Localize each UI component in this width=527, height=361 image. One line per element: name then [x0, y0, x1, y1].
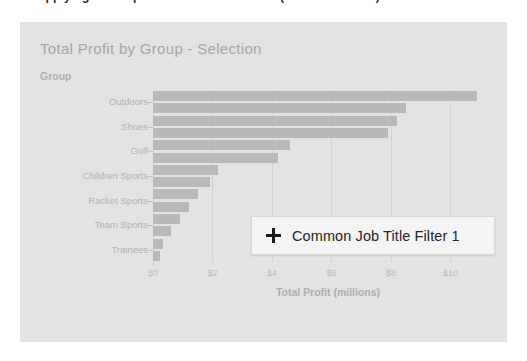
category-label[interactable]: Racket Sports	[88, 195, 148, 206]
bar[interactable]	[153, 226, 171, 236]
bar[interactable]	[153, 91, 477, 101]
bar[interactable]	[153, 165, 218, 175]
x-tick-label: $10	[443, 268, 458, 278]
x-axis-ticks: $0$2$4$6$8$10	[153, 268, 503, 284]
x-axis-title: Total Profit (millions)	[153, 286, 503, 298]
x-tick-label: $4	[267, 268, 277, 278]
chart-title: Total Profit by Group - Selection	[40, 40, 262, 57]
y-axis-title: Group	[40, 70, 72, 82]
x-tick-label: $0	[148, 268, 158, 278]
category-label[interactable]: Children Sports	[83, 170, 148, 181]
category-label[interactable]: Team Sports	[95, 219, 148, 230]
bar[interactable]	[153, 153, 278, 163]
bar[interactable]	[153, 214, 180, 224]
x-tick-label: $2	[207, 268, 217, 278]
filter-drag-chip[interactable]: Common Job Title Filter 1	[251, 216, 495, 255]
x-tick-label: $6	[326, 268, 336, 278]
cutoff-caption-text: After applying a Group filter to the Das…	[6, 0, 380, 3]
category-axis-labels: OutdoorsShoesGolfChildren SportsRacket S…	[20, 90, 148, 266]
bar[interactable]	[153, 239, 163, 249]
bar[interactable]	[153, 251, 160, 261]
bar[interactable]	[153, 116, 397, 126]
category-label[interactable]: Shoes	[121, 121, 148, 132]
x-tick-label: $8	[386, 268, 396, 278]
category-label[interactable]: Golf	[131, 145, 148, 156]
category-label[interactable]: Trainees	[111, 244, 148, 255]
bar[interactable]	[153, 189, 198, 199]
bar[interactable]	[153, 202, 189, 212]
bar[interactable]	[153, 128, 388, 138]
chart-container: Total Profit by Group - Selection Group …	[20, 22, 507, 342]
bar[interactable]	[153, 103, 406, 113]
cutoff-caption-sliver: After applying a Group filter to the Das…	[0, 0, 527, 12]
category-label[interactable]: Outdoors	[109, 96, 148, 107]
dashboard-panel[interactable]: Total Profit by Group - Selection Group …	[20, 22, 507, 342]
bar[interactable]	[153, 140, 290, 150]
plus-icon	[266, 228, 281, 243]
bar[interactable]	[153, 177, 210, 187]
filter-chip-label: Common Job Title Filter 1	[292, 228, 460, 244]
